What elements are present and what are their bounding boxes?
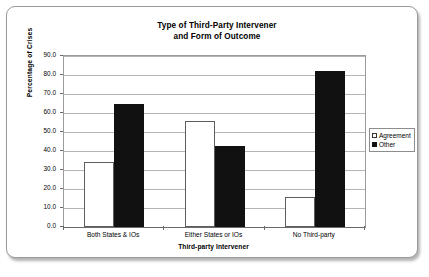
y-tick-mark: [60, 188, 63, 189]
bar-agreement-1: [185, 121, 215, 227]
y-tick-label: 80.0: [24, 71, 56, 77]
y-tick-label: 40.0: [24, 147, 56, 153]
gridline: [64, 56, 365, 57]
x-tick-mark: [163, 226, 164, 230]
chart-legend: AgreementOther: [369, 128, 415, 152]
x-tick-mark: [264, 226, 265, 230]
x-tick-label: No Third-party: [259, 231, 369, 239]
y-tick-label: 0.0: [24, 223, 56, 229]
y-tick-label: 60.0: [24, 109, 56, 115]
y-axis-title: Percentage of Crises: [26, 3, 33, 123]
chart-title-line-1: Type of Third-Party Intervener: [67, 21, 367, 32]
y-tick-label: 90.0: [24, 52, 56, 58]
x-tick-label: Either States or IOs: [159, 231, 269, 239]
y-tick-mark: [60, 74, 63, 75]
x-tick-mark: [63, 226, 64, 230]
y-tick-label: 70.0: [24, 90, 56, 96]
chart-frame: Type of Third-Party Intervener and Form …: [6, 6, 418, 258]
legend-item-agreement[interactable]: Agreement: [372, 131, 411, 140]
y-tick-mark: [60, 169, 63, 170]
bar-agreement-0: [84, 162, 114, 227]
y-tick-mark: [60, 112, 63, 113]
y-tick-mark: [60, 93, 63, 94]
chart-title: Type of Third-Party Intervener and Form …: [67, 21, 367, 42]
bar-agreement-2: [285, 197, 315, 227]
y-tick-mark: [60, 131, 63, 132]
chart-title-line-2: and Form of Outcome: [67, 32, 367, 43]
y-tick-mark: [60, 207, 63, 208]
bar-other-1: [215, 146, 245, 227]
filled-square-icon: [372, 142, 377, 147]
bar-other-2: [315, 71, 345, 227]
y-tick-label: 30.0: [24, 166, 56, 172]
axis-baseline: [64, 227, 365, 228]
y-tick-label: 10.0: [24, 204, 56, 210]
x-tick-label: Both States & IOs: [58, 231, 168, 239]
y-tick-mark: [60, 150, 63, 151]
bar-other-0: [114, 104, 144, 228]
hollow-square-icon: [372, 133, 377, 138]
legend-item-label: Agreement: [379, 132, 411, 139]
x-axis-title: Third-party Intervener: [63, 243, 364, 250]
legend-item-other[interactable]: Other: [372, 140, 411, 149]
plot-area: [63, 55, 366, 228]
chart-figure: Type of Third-Party Intervener and Form …: [0, 0, 429, 277]
y-tick-label: 20.0: [24, 185, 56, 191]
y-tick-mark: [60, 55, 63, 56]
y-tick-label: 50.0: [24, 128, 56, 134]
legend-item-label: Other: [379, 141, 395, 148]
x-tick-mark: [364, 226, 365, 230]
